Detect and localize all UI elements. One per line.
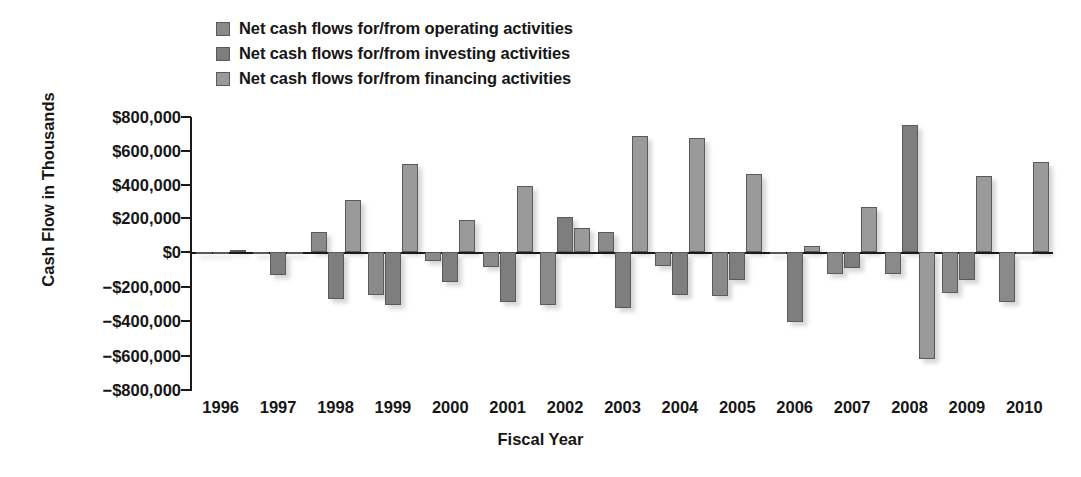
bar[interactable] (598, 232, 614, 252)
bar[interactable] (557, 217, 573, 252)
bar[interactable] (368, 252, 384, 295)
bar-shadow (1020, 256, 1036, 258)
bar-shadow (217, 256, 233, 258)
bar[interactable] (328, 252, 344, 299)
bar[interactable] (746, 174, 762, 252)
bar[interactable] (402, 164, 418, 252)
bar[interactable] (1016, 252, 1032, 254)
bar[interactable] (999, 252, 1015, 302)
bar[interactable] (976, 176, 992, 252)
bar[interactable] (230, 250, 246, 252)
y-axis-tick-mark (181, 184, 191, 186)
bar[interactable] (213, 252, 229, 254)
y-axis-tick-mark (181, 150, 191, 152)
x-axis-tick-label: 2003 (604, 398, 641, 417)
bar[interactable] (500, 252, 516, 302)
y-axis-tick-mark (181, 355, 191, 357)
x-axis-tick-label: 1999 (375, 398, 412, 417)
x-axis-tick-label: 2001 (489, 398, 526, 417)
x-axis-tick-label: 1998 (317, 398, 354, 417)
bar[interactable] (425, 252, 441, 261)
bar[interactable] (942, 252, 958, 293)
y-axis-tick-mark (181, 116, 191, 118)
x-axis-tick-label: 2008 (891, 398, 928, 417)
bar-shadow (291, 256, 307, 258)
bar[interactable] (787, 252, 803, 322)
x-axis-tick-label: 2004 (662, 398, 699, 417)
x-axis-title: Fiscal Year (0, 430, 1081, 449)
bar[interactable] (615, 252, 631, 308)
bar[interactable] (483, 252, 499, 267)
bar[interactable] (385, 252, 401, 305)
bar[interactable] (1033, 162, 1049, 252)
x-axis-tick-labels: 1996199719981999200020012002200320042005… (0, 398, 1081, 424)
x-axis-tick-label: 1996 (202, 398, 239, 417)
x-axis-tick-label: 2007 (834, 398, 871, 417)
x-axis-tick-label: 1997 (260, 398, 297, 417)
y-axis-tick-mark (181, 217, 191, 219)
bar[interactable] (540, 252, 556, 305)
x-axis-tick-label: 2006 (776, 398, 813, 417)
bar[interactable] (574, 228, 590, 252)
bar[interactable] (517, 186, 533, 252)
bar[interactable] (919, 252, 935, 359)
x-axis-tick-label: 2002 (547, 398, 584, 417)
bar[interactable] (253, 252, 269, 254)
bar[interactable] (861, 207, 877, 252)
bar[interactable] (196, 252, 212, 254)
bar[interactable] (770, 252, 786, 254)
bar[interactable] (885, 252, 901, 274)
bar[interactable] (442, 252, 458, 282)
bar[interactable] (804, 246, 820, 252)
bar[interactable] (345, 200, 361, 252)
y-axis-tick-mark (181, 389, 191, 391)
bar[interactable] (729, 252, 745, 280)
bar[interactable] (655, 252, 671, 266)
bar[interactable] (459, 220, 475, 252)
y-axis-tick-mark (181, 286, 191, 288)
bar[interactable] (632, 136, 648, 252)
bar[interactable] (270, 252, 286, 275)
bar[interactable] (672, 252, 688, 295)
bar[interactable] (712, 252, 728, 296)
bar[interactable] (902, 125, 918, 252)
bar[interactable] (689, 138, 705, 252)
bar[interactable] (287, 252, 303, 254)
bar-shadow (200, 256, 216, 258)
cash-flow-chart-figure: Net cash flows for/from operating activi… (0, 0, 1081, 477)
bar[interactable] (959, 252, 975, 280)
y-axis-tick-mark (181, 251, 191, 253)
plot-area: Cash Flow in Thousands $800,000$600,000$… (0, 0, 1081, 477)
x-axis-tick-label: 2005 (719, 398, 756, 417)
x-axis-tick-label: 2009 (949, 398, 986, 417)
y-axis-tick-mark (181, 320, 191, 322)
bar-shadow (234, 254, 250, 256)
x-axis-tick-label: 2000 (432, 398, 469, 417)
bar[interactable] (844, 252, 860, 268)
x-axis-tick-label: 2010 (1006, 398, 1043, 417)
bar[interactable] (827, 252, 843, 274)
bar[interactable] (311, 232, 327, 252)
